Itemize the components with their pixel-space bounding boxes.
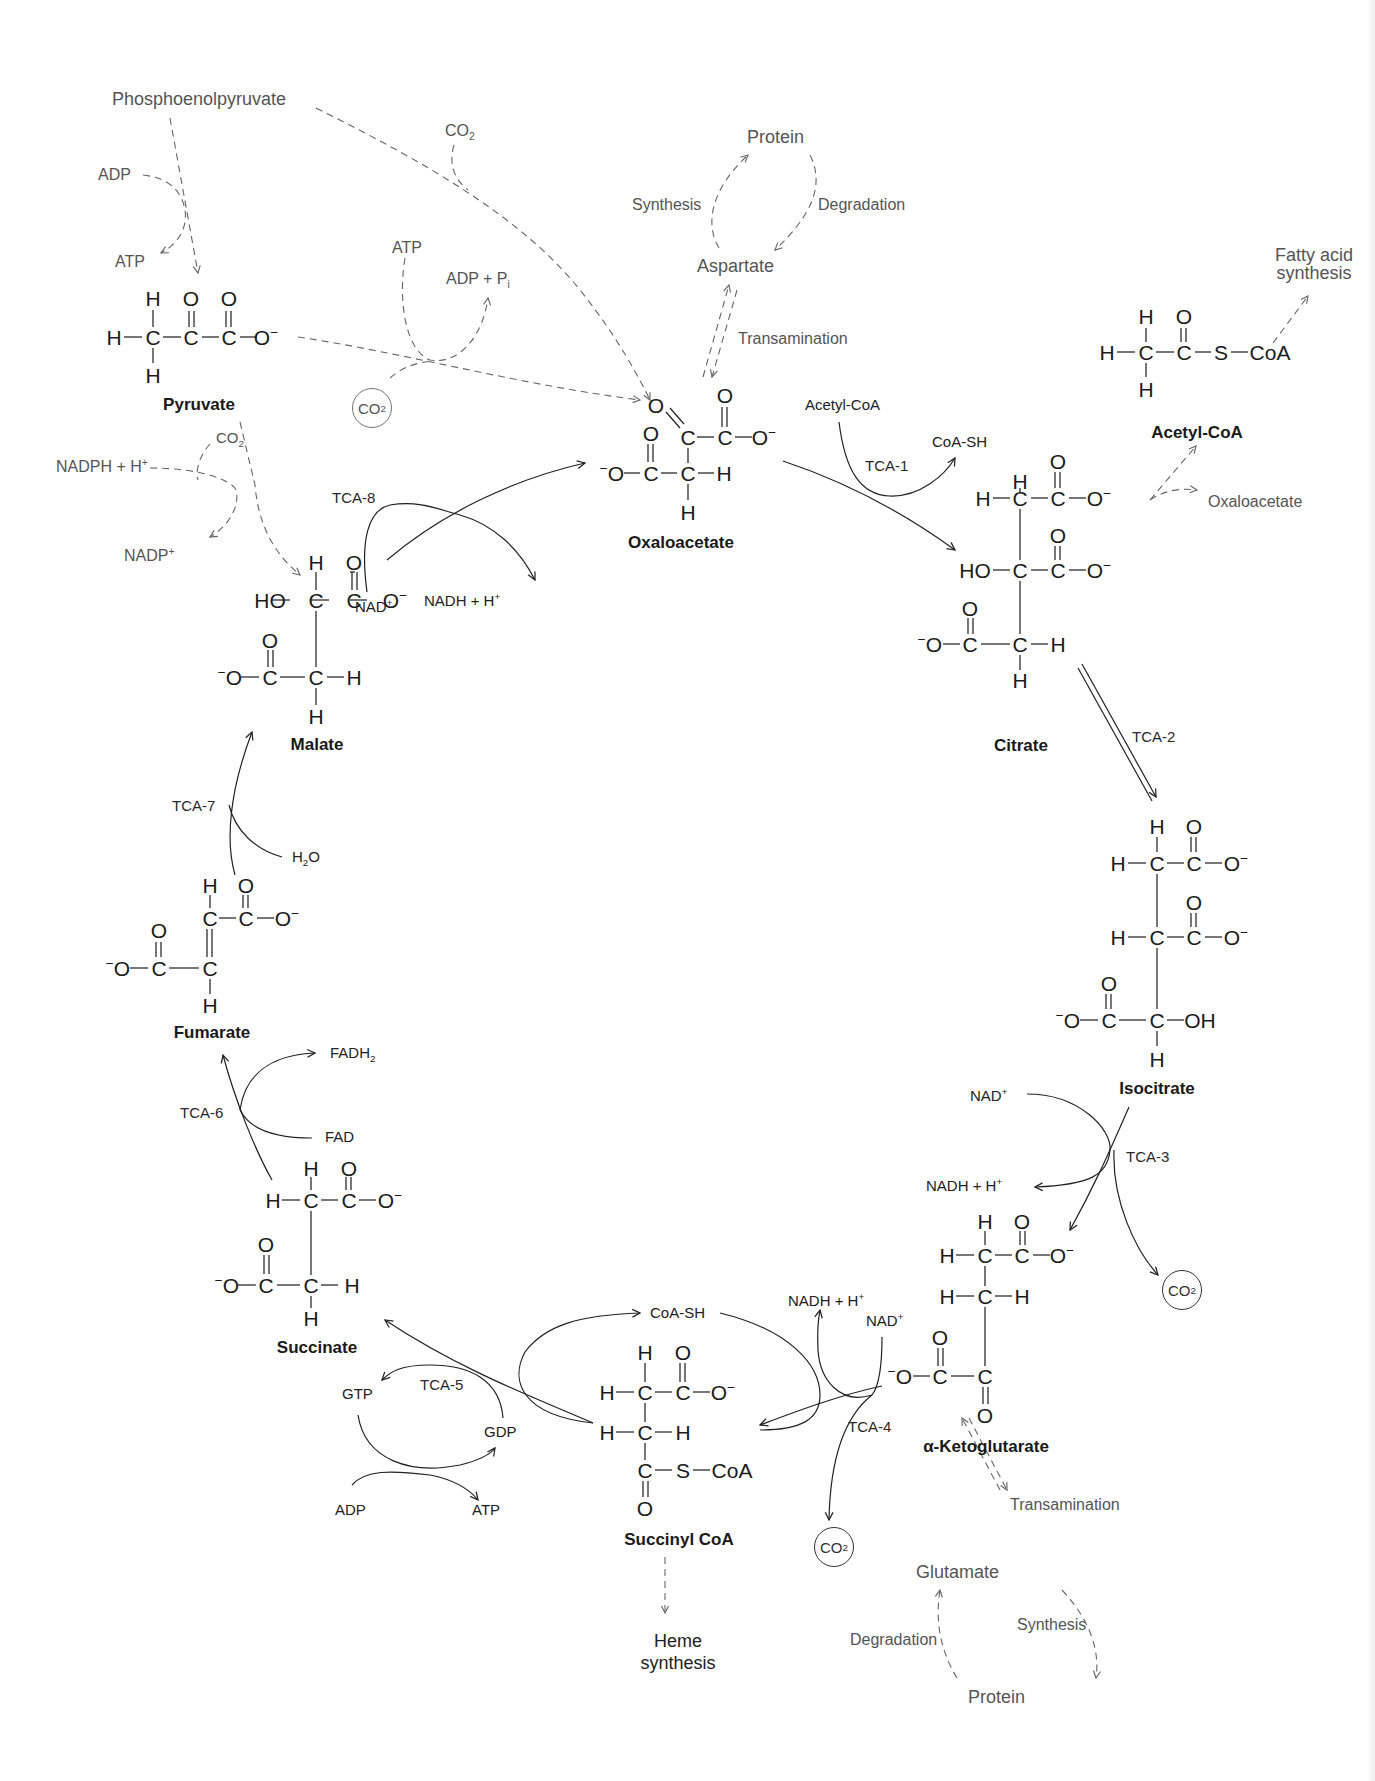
label-protein-bottom: Protein xyxy=(968,1688,1025,1706)
label-gtp: GTP xyxy=(342,1386,373,1401)
label-aspartate: Aspartate xyxy=(697,257,774,275)
label-adp-pep: ADP xyxy=(98,167,131,183)
page-edge-shadow xyxy=(1367,0,1375,1781)
label-acetyl-coa-input: Acetyl-CoA xyxy=(805,397,880,412)
label-adp-pi: ADP + Pi xyxy=(446,271,510,291)
label-succinyl-coa: Succinyl CoA xyxy=(624,1531,734,1548)
enzyme-tca-3: TCA-3 xyxy=(1126,1149,1169,1164)
co2-released-circle: CO2 xyxy=(352,388,392,428)
label-degradation-top: Degradation xyxy=(818,197,905,213)
enzyme-tca-8: TCA-8 xyxy=(332,490,375,505)
label-oxaloacetate: Oxaloacetate xyxy=(628,534,734,551)
label-succinate: Succinate xyxy=(277,1339,357,1356)
label-nad-tca4: NAD+ xyxy=(866,1312,903,1328)
enzyme-tca-4: TCA-4 xyxy=(848,1419,891,1434)
enzyme-tca-6: TCA-6 xyxy=(180,1105,223,1120)
tca-cycle-diagram: H C C C O− H O O H O O C C O− O −O C C H… xyxy=(0,0,1375,1781)
label-pyruvate: Pyruvate xyxy=(163,396,235,413)
label-nadp: NADP+ xyxy=(124,547,175,564)
label-coa-sh-tca1: CoA-SH xyxy=(932,434,987,449)
label-nadh-tca8: NADH + H+ xyxy=(424,592,500,608)
label-co2-malic: CO2 xyxy=(216,430,244,449)
label-atp-pc: ATP xyxy=(392,240,422,256)
label-adp-tca5: ADP xyxy=(335,1502,366,1517)
label-heme-synthesis: Hemesynthesis xyxy=(640,1631,715,1674)
label-nadh-tca4: NADH + H+ xyxy=(788,1292,864,1308)
label-fatty-acid-synthesis: Fatty acidsynthesis xyxy=(1275,246,1353,282)
label-acetyl-coa: Acetyl-CoA xyxy=(1151,424,1243,441)
label-protein-top: Protein xyxy=(747,128,804,146)
enzyme-tca-1: TCA-1 xyxy=(865,458,908,473)
enzyme-tca-5: TCA-5 xyxy=(420,1377,463,1392)
label-malate: Malate xyxy=(291,736,344,753)
label-citrate: Citrate xyxy=(994,737,1048,754)
label-gdp: GDP xyxy=(484,1424,517,1439)
label-transamination-bottom: Transamination xyxy=(1010,1497,1120,1513)
label-atp-tca5: ATP xyxy=(472,1502,500,1517)
label-degradation-bottom: Degradation xyxy=(850,1632,937,1648)
label-fad: FAD xyxy=(325,1129,354,1144)
enzyme-tca-7: TCA-7 xyxy=(172,798,215,813)
label-glutamate: Glutamate xyxy=(916,1563,999,1581)
enzyme-tca-2: TCA-2 xyxy=(1132,729,1175,744)
label-nad-tca8: NAD+ xyxy=(355,598,392,614)
label-nadph: NADPH + H+ xyxy=(56,458,148,475)
label-phosphoenolpyruvate: Phosphoenolpyruvate xyxy=(112,90,286,108)
label-co2-top: CO2 xyxy=(445,123,475,143)
label-fadh2: FADH2 xyxy=(330,1045,375,1064)
label-coa-sh-tca4: CoA-SH xyxy=(650,1305,705,1320)
label-alpha-ketoglutarate: α-Ketoglutarate xyxy=(923,1438,1049,1455)
label-transamination-top: Transamination xyxy=(738,331,848,347)
co2-tca4-circle: CO2 xyxy=(814,1527,854,1567)
label-h2o: H2O xyxy=(292,849,320,868)
label-nadh-tca3: NADH + H+ xyxy=(926,1177,1002,1193)
label-synthesis-bottom: Synthesis xyxy=(1017,1617,1086,1633)
label-isocitrate: Isocitrate xyxy=(1119,1080,1195,1097)
label-synthesis-top: Synthesis xyxy=(632,197,701,213)
label-oxaloacetate-right: Oxaloacetate xyxy=(1208,494,1302,510)
co2-tca3-circle: CO2 xyxy=(1162,1270,1202,1310)
label-fumarate: Fumarate xyxy=(174,1024,251,1041)
label-atp-pep: ATP xyxy=(115,254,145,270)
label-nad-tca3: NAD+ xyxy=(970,1087,1007,1103)
